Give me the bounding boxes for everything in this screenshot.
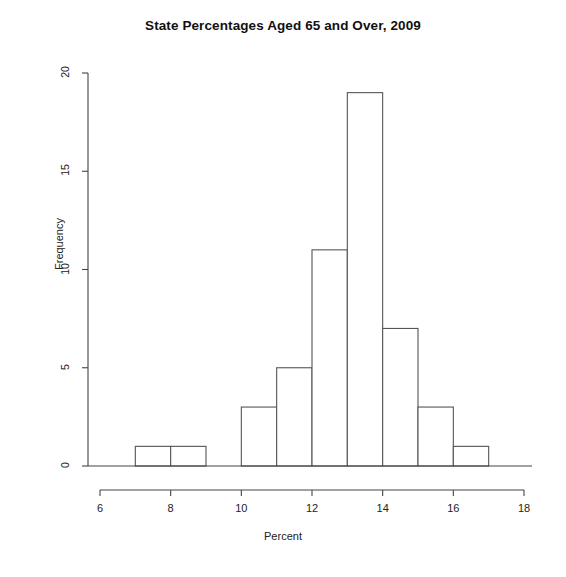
x-tick-label: 8 [156,502,186,514]
histogram-bar [383,328,418,466]
histogram-bar [347,93,382,466]
y-tick-label: 10 [59,258,71,280]
histogram-bar [241,407,276,466]
x-tick-label: 10 [226,502,256,514]
histogram-figure: State Percentages Aged 65 and Over, 2009… [0,0,566,577]
y-tick-label: 0 [59,454,71,476]
histogram-bar [453,446,488,466]
histogram-bars [135,93,488,466]
x-tick-label: 6 [85,502,115,514]
y-tick-label: 20 [59,61,71,83]
histogram-bar [171,446,206,466]
y-axis [82,73,88,466]
histogram-bar [135,446,170,466]
histogram-bar [312,250,347,466]
x-tick-label: 12 [297,502,327,514]
x-tick-label: 18 [509,502,539,514]
histogram-bar [277,368,312,466]
histogram-bar [418,407,453,466]
x-tick-label: 16 [438,502,468,514]
y-tick-label: 15 [59,159,71,181]
x-axis [100,490,524,496]
y-tick-label: 5 [59,356,71,378]
plot-area [0,0,566,577]
x-tick-label: 14 [368,502,398,514]
